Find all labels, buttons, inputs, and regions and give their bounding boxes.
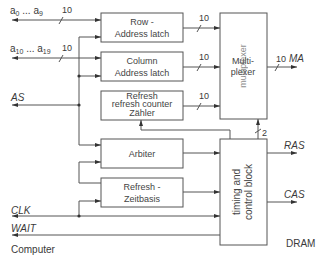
col-to-mux-bus: 10 — [183, 52, 220, 71]
column-latch-label-2: Address latch — [115, 68, 170, 78]
row-to-mux-bus: 10 — [183, 13, 220, 32]
control-to-mux-width: 2 — [262, 128, 267, 138]
refresh-timebase-label-1: Refresh - — [123, 182, 160, 192]
col-to-mux-width: 10 — [199, 52, 209, 62]
computer-label: Computer — [11, 244, 56, 255]
wait-signal: WAIT — [11, 223, 220, 237]
refresh-counter-label-3: Zähler — [129, 108, 155, 118]
row-latch-label-1: Row - — [130, 17, 154, 27]
row-latch-label-2: Address latch — [115, 29, 170, 39]
refresh-to-mux-width: 10 — [199, 91, 209, 101]
timing-control-label-1: timing and — [231, 169, 242, 215]
multiplexer-vertical-label: multiplexer — [238, 44, 248, 88]
address-high-bus: 10 a10 ... a19 — [10, 43, 101, 62]
arbiter-block: Arbiter — [101, 139, 183, 168]
diagram-svg: Row - Address latch Column Address latch… — [0, 0, 322, 260]
column-latch-label-1: Column — [126, 56, 157, 66]
ras-label: RAS — [284, 140, 305, 151]
addr-low-bus-width: 10 — [62, 5, 72, 15]
arbiter-to-control-wire — [183, 151, 220, 155]
ras-output: RAS — [267, 140, 305, 155]
row-address-latch-block: Row - Address latch — [101, 13, 183, 42]
timebase-to-arbiter-wire — [79, 160, 101, 183]
ma-label: MA — [289, 53, 304, 64]
dram-label: DRAM — [286, 238, 315, 249]
control-to-mux-bus: 2 — [255, 119, 267, 139]
addr-high-label: a10 ... a19 — [10, 43, 51, 55]
refresh-to-mux-bus: 10 — [183, 91, 220, 110]
multiplexer-block: Multi- plexer multiplexer — [220, 13, 267, 119]
address-low-bus: 10 a0 ... a9 — [10, 5, 101, 24]
ma-output: 10 MA — [267, 53, 304, 71]
arbiter-label: Arbiter — [129, 149, 156, 159]
dram-controller-diagram: Row - Address latch Column Address latch… — [0, 0, 322, 260]
timing-control-label-2: control block — [243, 163, 254, 220]
wait-label: WAIT — [11, 223, 37, 234]
clk-label: CLK — [11, 205, 32, 216]
refresh-counter-block: Refresh refresh counter Zähler — [101, 91, 183, 120]
timebase-to-control-wire — [183, 190, 220, 194]
as-label: AS — [10, 92, 25, 103]
control-to-refresh-counter-wire — [139, 120, 230, 139]
column-address-latch-block: Column Address latch — [101, 52, 183, 81]
cas-label: CAS — [284, 189, 305, 200]
ma-bus-width: 10 — [276, 54, 286, 64]
addr-low-label: a0 ... a9 — [10, 5, 43, 17]
timing-control-block: timing and control block — [220, 139, 267, 245]
addr-high-bus-width: 10 — [62, 43, 72, 53]
cas-output: CAS — [267, 189, 305, 204]
refresh-timebase-block: Refresh - Zeitbasis — [101, 178, 183, 207]
refresh-timebase-label-2: Zeitbasis — [124, 194, 161, 204]
row-to-mux-width: 10 — [199, 13, 209, 23]
